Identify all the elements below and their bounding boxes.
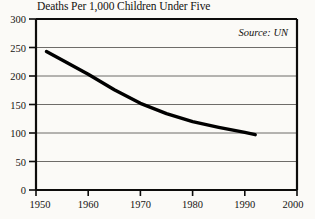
x-tick-label: 1960 [78,199,99,210]
y-tick-label: 250 [10,43,26,54]
y-tick-label: 50 [16,157,27,168]
y-tick-label: 100 [10,128,26,139]
gridlines [36,48,297,162]
chart-figure: Deaths Per 1,000 Children Under Five [0,0,315,219]
source-annotation: Source: UN [239,27,289,38]
data-series-line [46,51,255,134]
y-tick-label: 300 [10,14,26,25]
x-tick-label: 1970 [130,199,151,210]
y-tick-label: 0 [21,185,26,196]
x-tick-label: 2000 [283,199,304,210]
line-chart-plot: 300 250 200 150 100 50 0 1950 1960 1970 … [0,0,315,219]
x-tick-label: 1990 [234,199,255,210]
x-tick-label: 1950 [30,199,51,210]
y-tick-label: 200 [10,71,26,82]
x-axis-labels: 1950 1960 1970 1980 1990 2000 [30,199,304,210]
y-axis-labels: 300 250 200 150 100 50 0 [10,14,26,196]
x-tick-label: 1980 [182,199,203,210]
y-tick-label: 150 [10,100,26,111]
